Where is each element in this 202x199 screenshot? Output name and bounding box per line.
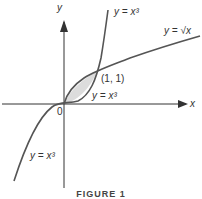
- x-axis-arrow-icon: [178, 100, 188, 108]
- cubic-label-top: y = x³: [114, 6, 139, 17]
- sqrt-curve: [64, 36, 200, 104]
- origin-label: 0: [57, 106, 63, 117]
- y-axis-label: y: [57, 2, 62, 13]
- cubic-label-mid: y = x³: [92, 90, 117, 101]
- intersection-label: (1, 1): [101, 73, 124, 84]
- cubic-label-bottom: y = x³: [30, 150, 55, 161]
- sqrt-label: y = √x: [164, 25, 191, 36]
- x-axis-label: x: [190, 98, 195, 109]
- y-axis-arrow-icon: [60, 20, 68, 32]
- figure-caption: FIGURE 1: [0, 189, 202, 199]
